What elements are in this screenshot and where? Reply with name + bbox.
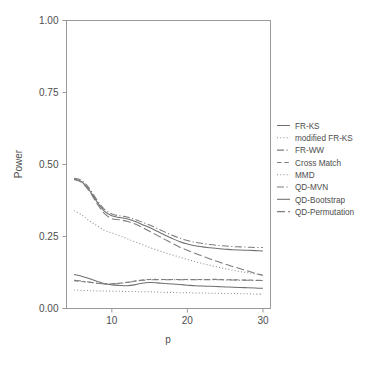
y-axis-title: Power <box>13 149 24 178</box>
x-tick-label: 10 <box>106 315 118 326</box>
legend-label-fr-ww: FR-WW <box>295 146 324 155</box>
x-axis-title: p <box>165 334 171 345</box>
x-tick-label: 30 <box>257 315 269 326</box>
legend-label-qd-permutation: QD-Permutation <box>295 208 355 217</box>
legend-label-qd-bootstrap: QD-Bootstrap <box>295 196 345 205</box>
legend-label-mmd: MMD <box>295 171 315 180</box>
legend-label-qd-mvn: QD-MVN <box>295 183 328 192</box>
y-tick-label: 0.50 <box>39 159 59 170</box>
power-vs-p-line-chart: 0.000.250.500.751.00 102030 Power p FR-K… <box>0 0 366 367</box>
legend-label-fr-ks: FR-KS <box>295 122 320 131</box>
legend-label-cross-match: Cross Match <box>295 159 341 168</box>
legend-label-modified-fr-ks: modified FR-KS <box>295 134 353 143</box>
x-tick-label: 20 <box>182 315 194 326</box>
y-tick-label: 0.25 <box>39 231 59 242</box>
chart-figure: 0.000.250.500.751.00 102030 Power p FR-K… <box>0 0 366 367</box>
y-tick-label: 1.00 <box>39 15 59 26</box>
y-tick-label: 0.00 <box>39 303 59 314</box>
y-tick-label: 0.75 <box>39 87 59 98</box>
